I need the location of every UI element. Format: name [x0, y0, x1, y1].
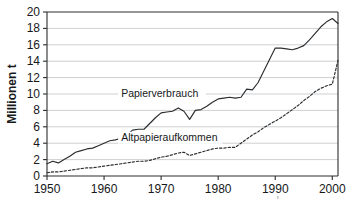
line-chart: 02468101214161820 1950196019701980199020…: [0, 0, 355, 212]
x-tick-label-1950: 1950: [34, 182, 61, 196]
y-tick-label-20: 20: [27, 5, 41, 19]
chart-figure: 02468101214161820 1950196019701980199020…: [0, 0, 355, 212]
x-tick-label-1980: 1980: [205, 182, 232, 196]
y-axis-title: Millionen t: [5, 64, 19, 123]
series-label-2: Altpapieraufkommen: [121, 131, 217, 143]
chart-background: [0, 0, 355, 212]
x-tick-label-2000: 2000: [319, 182, 346, 196]
y-tick-label-8: 8: [33, 103, 40, 117]
x-tick-label-1960: 1960: [91, 182, 118, 196]
y-tick-label-0: 0: [33, 169, 40, 183]
x-tick-label-1990: 1990: [262, 182, 289, 196]
series-label-1: Papierverbrauch: [121, 87, 198, 99]
y-tick-label-14: 14: [27, 54, 41, 68]
x-tick-label-1970: 1970: [148, 182, 175, 196]
y-tick-label-12: 12: [27, 71, 41, 85]
y-tick-label-6: 6: [33, 120, 40, 134]
scan-artifact: [277, 196, 279, 199]
y-tick-label-10: 10: [27, 87, 41, 101]
y-tick-label-16: 16: [27, 38, 41, 52]
y-tick-label-4: 4: [33, 136, 40, 150]
y-tick-label-2: 2: [33, 153, 40, 167]
y-tick-label-18: 18: [27, 21, 41, 35]
